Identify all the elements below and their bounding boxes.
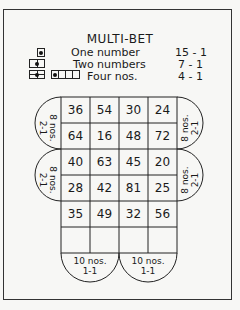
grid-cell[interactable]: 48	[119, 123, 148, 149]
side-bet-count: 8 nos.	[180, 106, 190, 150]
grid-cell[interactable]: 32	[119, 201, 148, 227]
side-bet-count: 10 nos.	[63, 256, 117, 266]
grid-cell[interactable]: 40	[61, 149, 90, 175]
side-bet-count: 8 nos.	[180, 158, 190, 202]
side-bet-payout: 2-1	[190, 106, 200, 150]
grid-cell[interactable]: 35	[61, 201, 90, 227]
grid-cell[interactable]: 81	[119, 175, 148, 201]
grid-cell[interactable]: 20	[148, 149, 177, 175]
grid-cell[interactable]: 28	[61, 175, 90, 201]
side-bet-right-top[interactable]: 8 nos. 2-1	[178, 108, 202, 138]
side-bet-right-bottom[interactable]: 8 nos. 2-1	[178, 160, 202, 190]
grid-cell[interactable]: 24	[148, 97, 177, 123]
grid-cell[interactable]: 54	[90, 97, 119, 123]
side-bet-payout: 1-1	[63, 266, 117, 276]
grid-cell[interactable]: 63	[90, 149, 119, 175]
side-bet-payout: 1-1	[121, 266, 175, 276]
side-bet-payout: 2-1	[38, 106, 48, 150]
grid-cell[interactable]: 64	[61, 123, 90, 149]
side-bet-bottom-left[interactable]: 10 nos. 1-1	[63, 256, 117, 276]
grid-cell[interactable]: 25	[148, 175, 177, 201]
grid-cell[interactable]: 45	[119, 149, 148, 175]
side-bet-count: 10 nos.	[121, 256, 175, 266]
grid-cell[interactable]: 30	[119, 97, 148, 123]
side-bet-payout: 2-1	[190, 158, 200, 202]
side-bet-left-top[interactable]: 8 nos. 2-1	[36, 108, 60, 138]
side-bet-count: 8 nos.	[48, 106, 58, 150]
grid-cell[interactable]: 56	[148, 201, 177, 227]
grid-cell[interactable]: 72	[148, 123, 177, 149]
grid-cell[interactable]: 16	[90, 123, 119, 149]
grid-cell[interactable]: 42	[90, 175, 119, 201]
grid-cell[interactable]: 49	[90, 201, 119, 227]
side-bet-payout: 2-1	[38, 158, 48, 202]
side-bet-left-bottom[interactable]: 8 nos. 2-1	[36, 160, 60, 190]
side-bet-count: 8 nos.	[48, 158, 58, 202]
side-bet-bottom-right[interactable]: 10 nos. 1-1	[121, 256, 175, 276]
grid-cell[interactable]: 36	[61, 97, 90, 123]
